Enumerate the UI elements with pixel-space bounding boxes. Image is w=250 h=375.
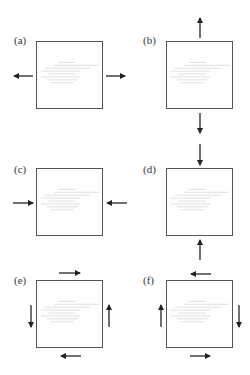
element-box-b <box>166 41 233 109</box>
panel-label-d: (d) <box>143 163 156 175</box>
panel-label-e: (e) <box>14 274 26 286</box>
panel-label-a: (a) <box>14 34 26 46</box>
element-box-d <box>166 168 233 236</box>
hatch-lines <box>167 281 232 347</box>
panel-label-b: (b) <box>143 34 156 46</box>
hatch-lines <box>37 42 102 108</box>
element-box-f <box>166 280 233 348</box>
hatch-lines <box>37 169 102 235</box>
element-box-e <box>36 280 103 348</box>
panel-label-c: (c) <box>14 163 26 175</box>
hatch-lines <box>167 169 232 235</box>
element-box-c <box>36 168 103 236</box>
panel-label-f: (f) <box>143 274 154 286</box>
hatch-lines <box>167 42 232 108</box>
hatch-lines <box>37 281 102 347</box>
element-box-a <box>36 41 103 109</box>
